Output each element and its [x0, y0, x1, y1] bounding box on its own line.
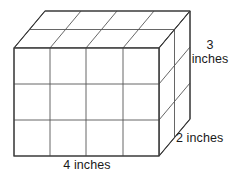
- height-value: 3: [186, 38, 234, 52]
- height-label: 3 inches: [186, 38, 234, 66]
- front-face: [14, 48, 159, 156]
- depth-label: 2 inches: [176, 131, 223, 145]
- width-label: 4 inches: [14, 158, 160, 172]
- prism-figure: 3 inches 2 inches 4 inches: [0, 0, 235, 175]
- prism-drawing: [0, 0, 235, 175]
- height-unit: inches: [186, 52, 234, 66]
